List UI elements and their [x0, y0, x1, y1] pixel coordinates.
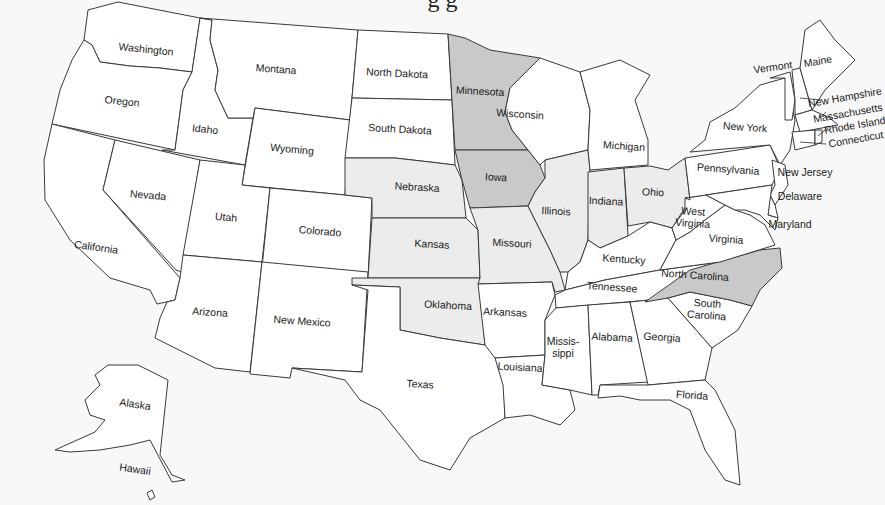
- state-label: Ohio: [642, 185, 665, 198]
- state-label: Illinois: [541, 204, 571, 218]
- us-map: WashingtonOregonCaliforniaIdahoNevadaMon…: [0, 0, 885, 505]
- state-label: Utah: [215, 210, 238, 224]
- state-label: Nebraska: [394, 180, 440, 194]
- state-michigan: [580, 60, 650, 170]
- state-label: Oklahoma: [424, 298, 473, 312]
- states-layer: [44, 2, 855, 500]
- state-label: New Jersey: [778, 166, 834, 178]
- state-label: Indiana: [589, 194, 624, 208]
- state-hawaii: [147, 490, 155, 500]
- state-label: Missouri: [492, 236, 532, 250]
- state-label: Maryland: [768, 218, 811, 230]
- state-label: Hawaii: [119, 461, 152, 477]
- state-florida: [598, 380, 740, 485]
- state-washington: [84, 2, 200, 72]
- state-label: Louisiana: [497, 360, 543, 374]
- state-connecticut: [792, 130, 815, 150]
- state-label: Arizona: [192, 305, 229, 319]
- state-label: Texas: [406, 377, 434, 390]
- state-label: Virginia: [708, 232, 744, 246]
- state-label: Alabama: [591, 330, 633, 344]
- state-label: Florida: [676, 388, 709, 402]
- state-rhode-island: [815, 130, 822, 145]
- state-label: Minnesota: [456, 84, 505, 99]
- state-label: Kansas: [414, 237, 450, 251]
- state-arkansas: [478, 282, 555, 358]
- state-indiana: [588, 168, 628, 248]
- state-label: Iowa: [485, 170, 508, 183]
- state-label: Delaware: [778, 190, 823, 202]
- state-label: Arkansas: [483, 305, 527, 319]
